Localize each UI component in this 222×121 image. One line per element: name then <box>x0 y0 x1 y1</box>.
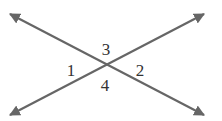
diagram-canvas: 1 2 3 4 <box>0 0 222 121</box>
intersecting-lines-diagram: 1 2 3 4 <box>0 0 222 121</box>
angle-label-2: 2 <box>136 61 145 80</box>
angle-label-3: 3 <box>102 40 111 59</box>
angle-label-1: 1 <box>67 61 76 80</box>
angle-label-4: 4 <box>101 76 110 95</box>
